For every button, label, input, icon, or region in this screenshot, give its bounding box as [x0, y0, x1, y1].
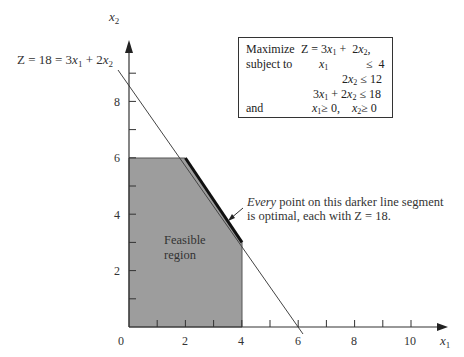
feasible-region-label: region — [164, 248, 197, 262]
feasible-region-label: Feasible — [164, 233, 206, 247]
x-tick-label: 10 — [404, 334, 416, 348]
x-tick-label: 2 — [182, 334, 188, 348]
box-objective: Z = 3x1 + 2x2, — [301, 42, 371, 61]
box-maximize-label: Maximize — [246, 42, 295, 58]
x-tick-label: 0 — [118, 334, 124, 348]
x-axis-arrow-icon — [437, 323, 448, 331]
box-subject-to-label: subject to — [246, 57, 292, 73]
x-tick-label: 6 — [295, 334, 301, 348]
x-tick-label: 4 — [238, 334, 244, 348]
y-axis-label: x2 — [108, 9, 119, 26]
x-tick-label: 8 — [351, 334, 357, 348]
optimal-annotation: is optimal, each with Z = 18. — [247, 209, 391, 223]
optimal-annotation: Every point on this darker line segment — [246, 195, 444, 209]
box-constraint-1-rhs: ≤ 4 — [366, 57, 385, 73]
box-nonnegativity: x1≥ 0, x2≥ 0 — [312, 101, 377, 120]
y-axis-arrow-icon — [125, 40, 133, 53]
y-tick-label: 6 — [114, 151, 120, 165]
chart-canvas: 0 2 4 6 8 10 2 4 6 8 x1 x2 Z = 18 = 3x1 … — [0, 0, 464, 357]
y-tick-label: 2 — [114, 264, 120, 278]
lp-problem-box: Maximize Z = 3x1 + 2x2, subject to x1 ≤ … — [238, 37, 393, 118]
objective-line-label: Z = 18 = 3x1 + 2x2 — [17, 52, 113, 69]
x-axis-label: x1 — [439, 333, 450, 350]
box-constraint-1: x1 — [319, 57, 328, 76]
y-tick-label: 8 — [114, 95, 120, 109]
box-and-label: and — [246, 101, 263, 117]
y-tick-label: 4 — [114, 208, 120, 222]
